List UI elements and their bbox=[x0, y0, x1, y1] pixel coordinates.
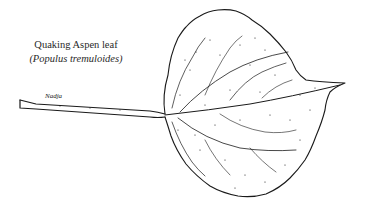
midrib bbox=[165, 85, 340, 115]
illustration-canvas: Quaking Aspen leaf (Populus tremuloides)… bbox=[0, 0, 366, 208]
petiole bbox=[20, 100, 165, 114]
leaf-drawing bbox=[0, 0, 366, 208]
